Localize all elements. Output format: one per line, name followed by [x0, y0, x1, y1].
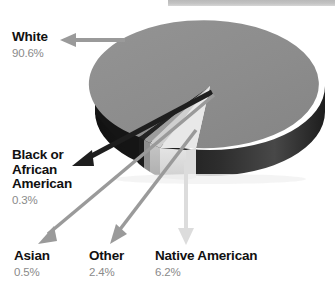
pie-shadow	[114, 174, 306, 184]
label-native-american-value: 6.2%	[155, 265, 257, 279]
label-white-name: White	[12, 30, 48, 45]
label-asian: Asian 0.5%	[14, 249, 50, 279]
label-asian-value: 0.5%	[14, 265, 50, 279]
label-white: White 90.6%	[12, 30, 48, 60]
label-other-name: Other	[89, 249, 124, 264]
label-other: Other 2.4%	[89, 249, 124, 279]
label-black-african-american-value: 0.3%	[12, 193, 72, 207]
label-asian-name: Asian	[14, 249, 50, 264]
label-native-american: Native American 6.2%	[155, 249, 257, 279]
label-native-american-name: Native American	[155, 249, 257, 264]
pie-chart-figure: White 90.6% Black or African American 0.…	[0, 0, 335, 296]
label-black-african-american-line3: American	[12, 177, 72, 192]
label-other-value: 2.4%	[89, 265, 124, 279]
label-white-value: 90.6%	[12, 46, 48, 60]
label-black-african-american-line1: Black or	[12, 148, 72, 163]
slice-wall-asian	[144, 140, 150, 172]
label-black-african-american: Black or African American 0.3%	[12, 148, 72, 207]
label-black-african-american-line2: African	[12, 163, 72, 178]
